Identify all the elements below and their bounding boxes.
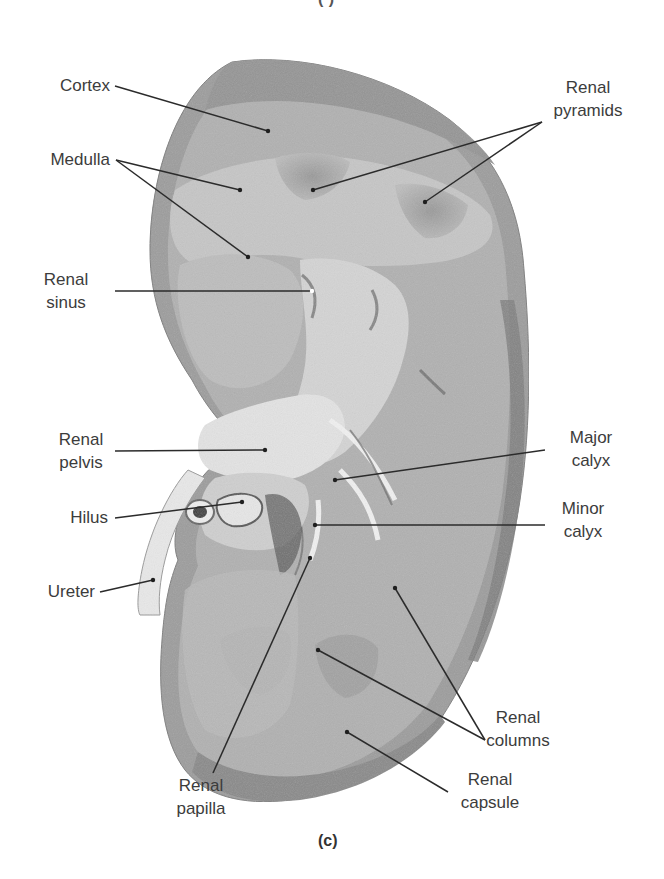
figure-caption: (c) [318,832,338,850]
label-renal-columns: Renal columns [478,706,558,752]
label-minor-calyx-line1: Minor [552,497,614,520]
label-major-calyx-line1: Major [560,426,622,449]
label-renal-papilla-line2: papilla [168,797,234,820]
label-renal-pelvis-line2: pelvis [50,451,112,474]
label-ureter: Ureter [20,580,95,603]
label-minor-calyx-line2: calyx [552,520,614,543]
label-renal-capsule: Renal capsule [450,768,530,814]
label-renal-pyramids-line1: Renal [548,76,628,99]
label-hilus: Hilus [40,506,108,529]
leader-pelvis [115,450,265,451]
label-renal-pelvis: Renal pelvis [50,428,112,474]
label-ureter-text: Ureter [48,582,95,601]
renal-vein-lumen [217,494,262,527]
label-renal-papilla: Renal papilla [168,774,234,820]
label-cortex: Cortex [30,74,110,97]
label-minor-calyx: Minor calyx [552,497,614,543]
kidney-diagram: (·) [0,0,664,879]
label-renal-papilla-line1: Renal [168,774,234,797]
label-cortex-text: Cortex [60,76,110,95]
label-renal-columns-line1: Renal [478,706,558,729]
label-renal-pyramids: Renal pyramids [548,76,628,122]
label-renal-sinus: Renal sinus [35,268,97,314]
label-renal-capsule-line2: capsule [450,791,530,814]
label-renal-capsule-line1: Renal [450,768,530,791]
label-renal-sinus-line1: Renal [35,268,97,291]
label-medulla: Medulla [20,148,110,171]
label-hilus-text: Hilus [70,508,108,527]
label-major-calyx-line2: calyx [560,449,622,472]
label-renal-pyramids-line2: pyramids [548,99,628,122]
label-renal-pelvis-line1: Renal [50,428,112,451]
label-major-calyx: Major calyx [560,426,622,472]
label-medulla-text: Medulla [50,150,110,169]
label-renal-sinus-line2: sinus [35,291,97,314]
label-renal-columns-line2: columns [478,729,558,752]
